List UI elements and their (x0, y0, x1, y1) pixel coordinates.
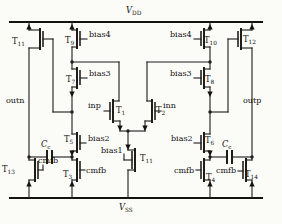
cmfb-t14-label: cmfb (216, 166, 236, 175)
inp-label: inp (88, 101, 101, 110)
t13-label: T13 (2, 164, 15, 175)
t8-label: T8 (205, 74, 215, 85)
t14-label: T14 (245, 169, 258, 180)
vss-label: VSS (119, 202, 133, 213)
outn-label: outn (6, 96, 24, 105)
transistor-t1 (104, 99, 123, 131)
t11-left-label: T11 (12, 36, 25, 47)
bias4-left-label: bias4 (89, 30, 111, 39)
drain-arrow (69, 92, 74, 97)
t4-label: T4 (206, 172, 216, 183)
left-fold-wire (72, 62, 119, 101)
bias1-label: bias1 (101, 146, 123, 155)
source-arrow (69, 181, 74, 186)
cmfb-t4-label: cmfb (174, 166, 194, 175)
transistor-t12 (228, 24, 255, 50)
t1-label: T1 (116, 105, 125, 116)
transistor-t3 (69, 158, 85, 186)
outp-label: outp (243, 96, 261, 105)
t12-label: T12 (243, 34, 256, 45)
t6-label: T6 (205, 135, 215, 146)
source-arrow (117, 126, 122, 131)
source-arrow (249, 24, 254, 29)
cc-left-label: Cc (41, 139, 51, 150)
source-arrow (26, 24, 31, 29)
t9-label: T9 (65, 35, 75, 46)
source-arrow (69, 24, 74, 29)
cmfb-t3-label: cmfb (86, 166, 106, 175)
t10-label: T10 (204, 35, 217, 46)
bias4-right-label: bias4 (170, 30, 192, 39)
bias2-right-label: bias2 (171, 134, 193, 143)
cmfb-t13-label: cmfb (38, 156, 58, 165)
vdd-label: VDD (126, 5, 142, 16)
junction-dots (27, 60, 253, 158)
source-arrow (207, 151, 212, 156)
amplifier-schematic: VDD VSS T11 T9 T7 T5 T3 T13 T1 T2 T11 T1… (0, 0, 282, 224)
inn-label: inn (163, 101, 176, 110)
transistor-t2 (142, 62, 161, 131)
t11-tail-label: T11 (140, 153, 153, 164)
source-arrow (142, 126, 147, 131)
drain-arrow (125, 145, 130, 150)
source-arrow (249, 181, 254, 186)
t3-label: T3 (63, 169, 73, 180)
bias3-right-label: bias3 (170, 69, 192, 78)
t5-label: T5 (64, 134, 74, 145)
source-arrow (207, 24, 212, 29)
bias3-left-label: bias3 (89, 69, 111, 78)
source-arrow (26, 181, 31, 186)
schematic-figure: VDD VSS T11 T9 T7 T5 T3 T13 T1 T2 T11 T1… (0, 0, 282, 224)
transistor-t11-tail (124, 145, 135, 198)
drain-arrow (207, 92, 212, 97)
tail-net (120, 131, 145, 150)
t7-label: T7 (66, 74, 76, 85)
bias2-left-label: bias2 (88, 134, 110, 143)
cc-right-label: Cc (222, 139, 232, 150)
source-arrow (69, 151, 74, 156)
